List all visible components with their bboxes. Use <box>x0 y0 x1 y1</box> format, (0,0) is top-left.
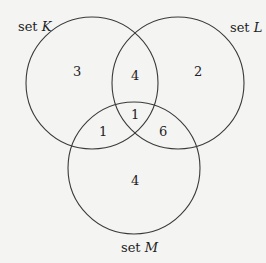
region-k-l-only: 4 <box>131 68 139 83</box>
label-set-l: set L <box>230 20 262 35</box>
label-set-m: set M <box>121 240 159 255</box>
region-m-only: 4 <box>131 173 139 188</box>
circle-set-l <box>112 17 244 149</box>
region-k-only: 3 <box>73 64 81 79</box>
circle-set-k <box>26 17 158 149</box>
region-l-m-only: 6 <box>159 124 167 139</box>
region-k-l-m: 1 <box>131 107 139 122</box>
venn-diagram: set K set L set M 3 4 2 1 1 6 4 <box>0 0 266 263</box>
venn-svg: set K set L set M 3 4 2 1 1 6 4 <box>0 0 266 263</box>
label-set-k: set K <box>18 19 53 34</box>
region-l-only: 2 <box>194 64 202 79</box>
region-k-m-only: 1 <box>99 124 107 139</box>
